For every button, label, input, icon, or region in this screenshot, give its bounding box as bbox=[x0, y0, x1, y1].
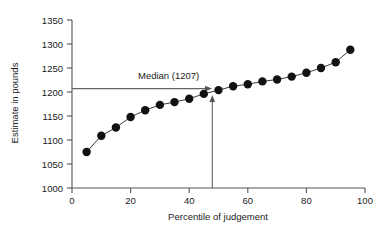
y-axis-ticks bbox=[67, 20, 72, 188]
median-arrow-head-up bbox=[210, 95, 216, 102]
data-point bbox=[170, 98, 178, 106]
chart-figure: Estimate in pounds 1350 1300 1250 1200 1… bbox=[0, 0, 384, 233]
x-axis-ticks bbox=[72, 188, 365, 193]
y-tick-label-1200: 1200 bbox=[42, 87, 63, 98]
y-axis-tick-labels: 1350 1300 1250 1200 1150 1100 1050 1000 bbox=[42, 15, 63, 194]
y-tick-label-1000: 1000 bbox=[42, 183, 63, 194]
data-point bbox=[82, 148, 90, 156]
median-annotation: Median (1207) bbox=[72, 70, 215, 188]
data-point bbox=[273, 75, 281, 83]
x-tick-label-0: 0 bbox=[69, 195, 74, 206]
y-tick-label-1300: 1300 bbox=[42, 39, 63, 50]
x-tick-label-20: 20 bbox=[125, 195, 136, 206]
data-point bbox=[156, 101, 164, 109]
x-tick-label-60: 60 bbox=[243, 195, 254, 206]
x-tick-label-40: 40 bbox=[184, 195, 195, 206]
x-tick-label-100: 100 bbox=[357, 195, 373, 206]
y-tick-label-1100: 1100 bbox=[43, 135, 63, 146]
data-point bbox=[112, 123, 120, 131]
y-axis-title: Estimate in pounds bbox=[9, 62, 20, 143]
y-tick-label-1150: 1150 bbox=[43, 111, 63, 122]
x-axis-tick-labels: 0 20 40 60 80 100 bbox=[69, 195, 373, 206]
data-point bbox=[288, 72, 296, 80]
x-tick-label-80: 80 bbox=[301, 195, 312, 206]
series-markers bbox=[82, 46, 354, 157]
data-point bbox=[244, 80, 252, 88]
y-tick-label-1350: 1350 bbox=[42, 15, 63, 26]
data-point bbox=[302, 69, 310, 77]
y-tick-label-1250: 1250 bbox=[42, 63, 63, 74]
median-label: Median (1207) bbox=[138, 70, 199, 81]
data-point bbox=[214, 86, 222, 94]
percentile-estimate-line-chart: Estimate in pounds 1350 1300 1250 1200 1… bbox=[0, 0, 384, 233]
data-point bbox=[346, 46, 354, 54]
y-tick-label-1050: 1050 bbox=[42, 159, 63, 170]
data-point bbox=[97, 132, 105, 140]
data-point bbox=[317, 64, 325, 72]
data-point bbox=[229, 82, 237, 90]
data-point bbox=[141, 106, 149, 114]
data-point bbox=[185, 95, 193, 103]
x-axis-title: Percentile of judgement bbox=[168, 211, 268, 222]
data-point bbox=[258, 77, 266, 85]
data-point bbox=[332, 58, 340, 66]
series-polyline bbox=[87, 50, 351, 152]
data-point bbox=[200, 90, 208, 98]
data-point bbox=[126, 113, 134, 121]
